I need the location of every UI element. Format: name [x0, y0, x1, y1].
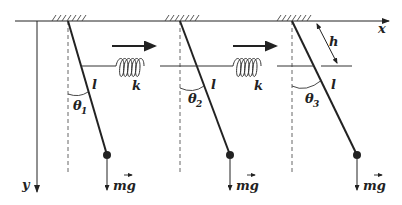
- length-label-3: l: [331, 77, 336, 92]
- angle-arc-3: [292, 80, 322, 88]
- bob-2: [226, 151, 234, 159]
- ceiling-hatch-2: [165, 15, 199, 21]
- coupled-pendulum-diagram: x y mg mg mg: [0, 0, 402, 205]
- svg-text:mg: mg: [113, 178, 136, 193]
- spring-label-2: k: [254, 78, 263, 93]
- length-label-2: l: [211, 77, 216, 92]
- ceiling-hatch-3: [277, 15, 311, 21]
- pendulum-rod-2: [180, 21, 230, 155]
- angle-arc-1: [68, 92, 88, 96]
- ceiling-hatch-1: [52, 15, 86, 21]
- angle-label-2: θ 2: [188, 91, 202, 109]
- svg-text:1: 1: [81, 106, 87, 116]
- angle-label-1: θ 1: [73, 98, 87, 116]
- spring-2-3: [196, 59, 314, 77]
- spring-1-2: [81, 59, 196, 77]
- y-axis-label: y: [21, 177, 31, 192]
- bob-3: [353, 151, 361, 159]
- svg-text:mg: mg: [363, 178, 386, 193]
- angle-label-3: θ 3: [305, 91, 319, 109]
- force-label-2: mg: [236, 175, 259, 193]
- force-label-3: mg: [363, 175, 386, 193]
- pendulum-rod-1: [68, 21, 107, 155]
- spring-label-1: k: [132, 78, 141, 93]
- angle-arc-2: [180, 86, 204, 91]
- bob-1: [103, 151, 111, 159]
- x-axis-label: x: [377, 21, 386, 36]
- force-label-1: mg: [113, 175, 136, 193]
- height-label: h: [329, 34, 338, 49]
- svg-text:mg: mg: [236, 178, 259, 193]
- length-label-1: l: [92, 77, 97, 92]
- svg-text:3: 3: [313, 99, 319, 109]
- svg-text:2: 2: [195, 99, 202, 109]
